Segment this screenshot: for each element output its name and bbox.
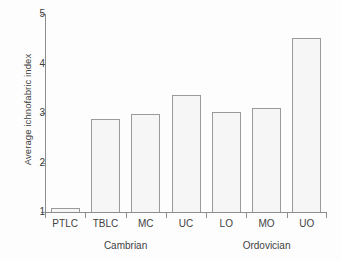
- x-tick-label: UC: [179, 219, 193, 229]
- bar-mo: [252, 108, 281, 212]
- group-label-cambrian: Cambrian: [104, 241, 147, 251]
- x-tick-label: LO: [220, 219, 233, 229]
- x-tick-mark: [246, 212, 247, 218]
- bar-uc: [172, 95, 201, 212]
- bar-ptlc: [51, 208, 80, 212]
- x-tick-label: MC: [138, 219, 154, 229]
- x-axis-line: [45, 212, 327, 213]
- y-axis-label: Average ichnofabric index: [22, 10, 33, 210]
- x-tick-mark: [85, 212, 86, 218]
- x-tick-mark: [166, 212, 167, 218]
- x-tick-mark: [206, 212, 207, 218]
- group-label-ordovician: Ordovician: [243, 241, 291, 251]
- y-tick-label: 2: [39, 158, 45, 168]
- y-tick-label: 4: [39, 59, 45, 69]
- x-tick-mark: [126, 212, 127, 218]
- x-tick-mark: [326, 212, 327, 218]
- bar-tblc: [91, 119, 120, 212]
- x-tick-mark: [287, 212, 288, 218]
- bar-mc: [131, 114, 160, 212]
- bar-lo: [212, 112, 241, 212]
- y-tick-label: 3: [39, 108, 45, 118]
- x-tick-mark: [45, 212, 46, 218]
- chart-figure: Average ichnofabric index 12345 PTLCTBLC…: [0, 0, 341, 260]
- x-tick-label: TBLC: [93, 219, 119, 229]
- x-tick-label: MO: [259, 219, 275, 229]
- x-tick-label: UO: [299, 219, 314, 229]
- plot-area: 12345 PTLCTBLCMCUCLOMOUO CambrianOrdovic…: [45, 14, 327, 213]
- bar-uo: [292, 38, 321, 212]
- x-tick-label: PTLC: [52, 219, 78, 229]
- y-tick-label: 5: [39, 9, 45, 19]
